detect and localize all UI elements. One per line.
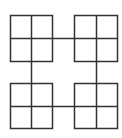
square-bottom-right bbox=[74, 83, 118, 129]
grid-diagram bbox=[0, 0, 122, 138]
square-top-left bbox=[10, 15, 53, 62]
square-bottom-left bbox=[10, 83, 53, 129]
square-top-right bbox=[74, 15, 118, 62]
